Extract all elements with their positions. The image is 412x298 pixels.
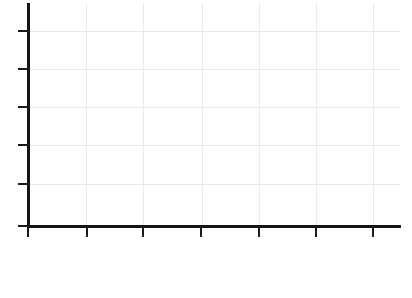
- gridline-horizontal: [28, 31, 400, 32]
- gridline-vertical: [259, 3, 260, 226]
- y-axis-tick: [18, 68, 29, 70]
- y-axis-tick: [18, 183, 29, 185]
- gridline-vertical: [86, 3, 87, 226]
- gridline-vertical: [316, 3, 317, 226]
- y-axis-tick: [18, 30, 29, 32]
- y-axis-tick: [18, 144, 29, 146]
- gridline-horizontal: [28, 107, 400, 108]
- y-axis-spine: [27, 3, 30, 228]
- x-axis-tick: [315, 226, 317, 237]
- gridline-horizontal: [28, 184, 400, 185]
- gridline-horizontal: [28, 145, 400, 146]
- gridline-vertical: [202, 3, 203, 226]
- gridline-vertical: [143, 3, 144, 226]
- x-axis-tick: [200, 226, 202, 237]
- x-axis-tick: [86, 226, 88, 237]
- gridline-horizontal: [28, 69, 400, 70]
- y-axis-tick: [18, 106, 29, 108]
- x-axis-tick: [372, 226, 374, 237]
- x-axis-tick: [27, 226, 29, 237]
- x-axis-tick: [258, 226, 260, 237]
- x-axis-spine: [27, 225, 401, 228]
- plot-area: [28, 3, 400, 226]
- x-axis-tick: [142, 226, 144, 237]
- chart-figure: [0, 0, 412, 298]
- gridline-vertical: [373, 3, 374, 226]
